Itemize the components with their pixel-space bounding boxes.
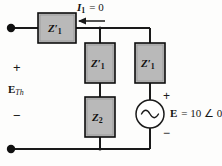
- source-minus-sign: −: [163, 126, 170, 140]
- current-subscript: 1: [81, 6, 85, 15]
- impedance-label-z2: Z2: [92, 111, 103, 125]
- terminal-dot-bottom: [7, 145, 15, 153]
- wire-group: [14, 28, 150, 149]
- circuit-schematic-canvas: [0, 0, 222, 166]
- source-value: = 10 ∠ 0°: [181, 107, 222, 119]
- junction-node-bottom-middle: [98, 147, 101, 150]
- impedance-label-z1-prime-right: Z′1: [141, 57, 155, 71]
- source-value-label: E= 10 ∠ 0°: [170, 108, 222, 119]
- source-symbol: E: [170, 107, 177, 119]
- impedance-label-z1-prime-series: Z′1: [48, 22, 62, 36]
- source-plus-sign: +: [163, 89, 170, 103]
- z-symbol: Z: [141, 57, 148, 69]
- thevenin-minus-sign: −: [13, 108, 21, 123]
- junction-node-top-middle: [98, 26, 101, 29]
- thevenin-voltage-subscript: Th: [15, 88, 23, 97]
- circuit-diagram-figure: I1= 0 + ETh − Z′1 Z′1 Z′1 Z2 + − E= 10 ∠…: [0, 0, 222, 166]
- ac-voltage-source-symbol: [136, 100, 164, 128]
- z-subscript: 1: [101, 62, 105, 71]
- z-symbol: Z: [91, 57, 98, 69]
- z-subscript: 2: [99, 116, 103, 125]
- z-subscript: 1: [151, 62, 155, 71]
- z-subscript: 1: [58, 27, 62, 36]
- z-symbol: Z: [92, 111, 99, 123]
- z-symbol: Z: [48, 22, 55, 34]
- thevenin-plus-sign: +: [13, 60, 21, 75]
- current-equals: = 0: [89, 1, 103, 13]
- impedance-label-z1-prime-middle: Z′1: [91, 57, 105, 71]
- terminal-dot-top: [7, 24, 15, 32]
- current-label: I1= 0: [77, 2, 104, 15]
- thevenin-voltage-label: ETh: [8, 84, 24, 97]
- current-direction-arrow: [78, 18, 105, 25]
